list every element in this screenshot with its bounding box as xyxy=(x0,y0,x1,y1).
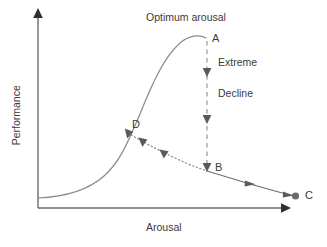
recovery-path-group xyxy=(125,129,207,172)
recovery-arrow-marker-3 xyxy=(159,150,168,159)
catastrophe-drop-group xyxy=(203,41,212,172)
point-label-b: B xyxy=(215,162,222,173)
decline-arrow-marker-end xyxy=(283,192,294,198)
point-label-a: A xyxy=(212,33,219,44)
inverted-u-curve xyxy=(38,36,206,198)
x-axis-arrow-icon xyxy=(281,203,291,213)
y-axis-arrow-icon xyxy=(33,8,43,18)
catastrophe-model-diagram: Optimum arousal A B C D Extreme Decline … xyxy=(0,0,327,247)
x-axis-label: Arousal xyxy=(146,222,182,233)
diagram-canvas xyxy=(0,0,327,247)
point-label-d: D xyxy=(132,119,140,130)
main-curve-group xyxy=(38,36,206,198)
decline-tail-group xyxy=(207,171,299,200)
drop-arrow-marker-1 xyxy=(203,68,212,77)
y-axis-label: Performance xyxy=(11,85,22,145)
axis-group xyxy=(33,8,291,213)
point-label-c: C xyxy=(305,190,313,201)
drop-arrow-marker-2 xyxy=(203,115,212,124)
extreme-annotation-label: Extreme xyxy=(218,57,257,68)
decline-annotation-label: Decline xyxy=(218,88,253,99)
endpoint-dot-c xyxy=(292,192,299,199)
recovery-arrow-marker-2 xyxy=(138,138,147,147)
optimum-arousal-label: Optimum arousal xyxy=(146,12,226,23)
